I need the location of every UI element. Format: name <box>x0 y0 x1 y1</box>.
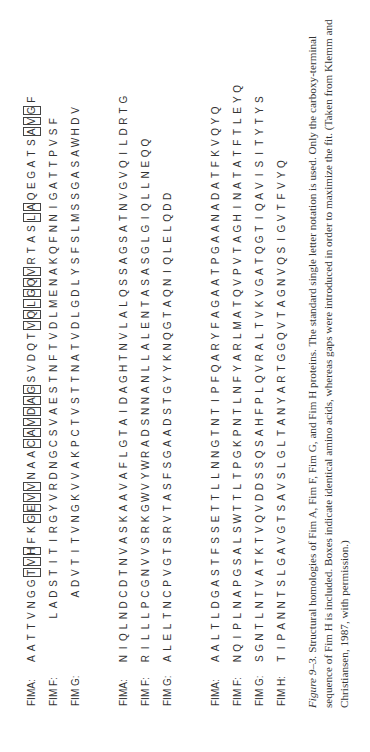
residue: L <box>136 621 156 632</box>
residue: T <box>158 546 178 557</box>
residue: Y <box>228 363 248 374</box>
residue: L <box>44 309 64 320</box>
residue <box>44 653 64 664</box>
residue: T <box>272 589 292 600</box>
amino-acid-sequence: ADVTITVNGKVVAKPCTVSTTNATVDLGDLYSFSLMSSGA… <box>66 105 86 664</box>
residue: T <box>228 170 248 181</box>
residue: A <box>206 309 226 320</box>
residue: D <box>136 428 156 439</box>
residue: A <box>136 385 156 396</box>
residue: A <box>22 643 42 654</box>
residue: V <box>66 481 86 492</box>
residue: A <box>22 653 42 664</box>
residue: N <box>272 277 292 288</box>
residue: M <box>44 299 64 310</box>
residue: L <box>250 385 270 396</box>
residue: P <box>228 460 248 471</box>
residue: G <box>158 557 178 568</box>
residue: K <box>44 256 64 267</box>
residue: N <box>206 449 226 460</box>
residue: V <box>228 256 248 267</box>
residue: S <box>206 524 226 535</box>
residue: L <box>228 331 248 342</box>
residue: A <box>250 567 270 578</box>
residue: A <box>158 653 178 664</box>
residue: N <box>44 223 64 234</box>
residue: A <box>22 202 42 213</box>
residue: S <box>272 578 292 589</box>
residue: D <box>66 116 86 127</box>
residue: F <box>250 406 270 417</box>
residue: F <box>272 191 292 202</box>
residue: E <box>44 395 64 406</box>
figure-caption: Figure 9–3. Structural homologies of Fim… <box>304 8 352 708</box>
residue: R <box>206 342 226 353</box>
residue: S <box>250 460 270 471</box>
residue: A <box>272 546 292 557</box>
residue: V <box>250 578 270 589</box>
residue: V <box>22 481 42 492</box>
residue: A <box>136 438 156 449</box>
residue: D <box>158 417 178 428</box>
residue: P <box>228 621 248 632</box>
residue: F <box>44 352 64 363</box>
residue: G <box>206 245 226 256</box>
residue: L <box>228 395 248 406</box>
residue: N <box>114 342 134 353</box>
residue: G <box>250 643 270 654</box>
residue: G <box>158 385 178 396</box>
residue: G <box>22 514 42 525</box>
residue: F <box>22 535 42 546</box>
residue: L <box>206 481 226 492</box>
residue: D <box>206 600 226 611</box>
residue: L <box>136 352 156 363</box>
residue: N <box>136 406 156 417</box>
residue: G <box>136 245 156 256</box>
residue: T <box>22 632 42 643</box>
residue: D <box>158 202 178 213</box>
residue: A <box>44 180 64 191</box>
residue: F <box>206 374 226 385</box>
residue <box>44 643 64 654</box>
residue: G <box>66 503 86 514</box>
residue: R <box>250 352 270 363</box>
residue: T <box>250 589 270 600</box>
residue: F <box>206 546 226 557</box>
residue: T <box>206 170 226 181</box>
residue: G <box>114 94 134 105</box>
residue: L <box>228 116 248 127</box>
residue: V <box>22 320 42 331</box>
residue: A <box>272 385 292 396</box>
residue: A <box>44 406 64 417</box>
residue: Q <box>22 342 42 353</box>
residue: N <box>272 406 292 417</box>
residue: V <box>66 524 86 535</box>
residue: I <box>158 266 178 277</box>
residue: W <box>136 492 156 503</box>
residue: A <box>272 492 292 503</box>
residue: A <box>22 234 42 245</box>
residue: P <box>136 600 156 611</box>
residue: V <box>250 363 270 374</box>
residue: T <box>44 374 64 385</box>
residue: R <box>158 524 178 535</box>
residue: D <box>114 395 134 406</box>
residue: N <box>136 567 156 578</box>
residue: N <box>44 460 64 471</box>
residue: L <box>158 621 178 632</box>
residue: S <box>66 395 86 406</box>
residue: D <box>44 471 64 482</box>
residue: S <box>136 256 156 267</box>
residue: T <box>22 567 42 578</box>
residue: L <box>158 245 178 256</box>
residue: G <box>44 191 64 202</box>
residue: G <box>136 503 156 514</box>
residue: T <box>114 428 134 439</box>
residue: I <box>250 213 270 224</box>
residue: R <box>44 524 64 535</box>
residue: D <box>66 578 86 589</box>
residue: L <box>206 610 226 621</box>
residue: P <box>250 395 270 406</box>
residue: V <box>136 481 156 492</box>
residue: M <box>66 213 86 224</box>
